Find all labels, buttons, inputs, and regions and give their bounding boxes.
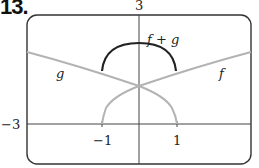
x-tick-label-neg1: −1	[93, 133, 112, 148]
x-tick-label-neg3: −3	[1, 117, 20, 132]
label-f-plus-g: f + g	[146, 32, 179, 47]
label-f: f	[218, 66, 226, 81]
x-tick-label-1: 1	[173, 133, 181, 148]
y-tick-label-3: 3	[135, 0, 143, 13]
graph: 3 −3 −1 1 f + g g f	[0, 0, 259, 168]
curve-f	[102, 52, 251, 124]
label-g: g	[56, 66, 64, 81]
curve-g	[27, 52, 177, 124]
